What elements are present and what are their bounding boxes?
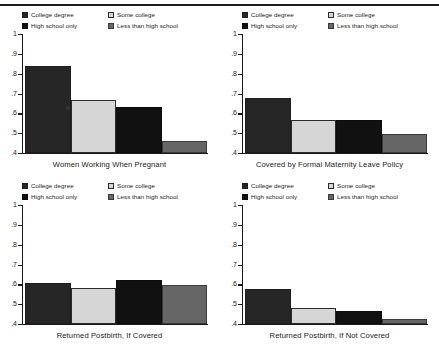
y-axis-tick-label: .9 [231,220,237,229]
legend-column: College degreeHigh school only [242,181,297,203]
legend-swatch-icon [242,12,248,18]
legend-swatch-icon [328,183,334,189]
legend-item[interactable]: High school only [22,192,77,201]
y-axis-tick-mark [238,245,242,246]
y-axis-tick-mark [238,74,242,75]
y-axis-tick-mark [238,94,242,95]
bar [162,285,208,324]
y-axis-tick-label: .8 [231,69,237,78]
legend-column: College degreeHigh school only [242,10,297,32]
y-axis-tick-label: .8 [231,240,237,249]
y-axis-tick-mark [18,284,22,285]
legend-label: Some college [337,182,375,190]
y-axis-tick-mark [238,113,242,114]
y-axis-tick-mark [18,54,22,55]
legend-swatch-icon [242,23,248,29]
y-axis-tick-mark [18,94,22,95]
figure-canvas: College degreeHigh school onlySome colle… [0,0,439,348]
y-axis-tick-mark [238,34,242,35]
legend-label: Some college [337,11,375,19]
chart-panel: College degreeHigh school onlySome colle… [0,6,219,177]
bar [245,98,291,153]
legend-item[interactable]: High school only [242,21,297,30]
y-axis-tick-mark [18,205,22,206]
legend-label: Less than high school [337,193,398,201]
y-axis-tick-mark [18,153,22,154]
chart-legend: College degreeHigh school onlySome colle… [20,181,216,201]
plot-area: 1.9.8.7.6.5.4 [242,34,428,153]
legend-item[interactable]: Some college [108,10,178,19]
legend-item[interactable]: College degree [22,181,77,190]
y-axis-tick-mark [238,133,242,134]
y-axis-tick-mark [238,205,242,206]
y-axis-tick-mark [18,265,22,266]
y-axis-tick-label: .7 [231,89,237,98]
legend-item[interactable]: Less than high school [108,192,178,201]
legend-item[interactable]: Less than high school [328,192,398,201]
legend-label: Some college [117,182,155,190]
y-axis-tick-mark [18,133,22,134]
y-axis-tick-label: .6 [231,279,237,288]
legend-item[interactable]: Less than high school [108,21,178,30]
y-axis-line [22,34,23,153]
x-axis-line [22,153,208,154]
y-axis-tick-mark [18,74,22,75]
legend-label: College degree [31,11,74,19]
plot-area: 1.9.8.7.6.5.4 [242,205,428,324]
legend-swatch-icon [328,194,334,200]
y-axis-tick-mark [18,113,22,114]
legend-item[interactable]: College degree [242,10,297,19]
y-axis-tick-label: .9 [231,49,237,58]
y-axis-tick-label: .5 [11,299,17,308]
legend-column: College degreeHigh school only [22,181,77,203]
legend-column: College degreeHigh school only [22,10,77,32]
y-axis-tick-mark [238,304,242,305]
x-axis-line [242,324,428,325]
y-axis-line [22,205,23,324]
legend-swatch-icon [22,12,28,18]
panel-grid: College degreeHigh school onlySome colle… [0,6,439,348]
legend-swatch-icon [108,183,114,189]
legend-swatch-icon [328,12,334,18]
chart-panel: College degreeHigh school onlySome colle… [220,6,439,177]
legend-item[interactable]: High school only [242,192,297,201]
x-axis-line [242,153,428,154]
y-axis-tick-label: .8 [11,240,17,249]
y-axis-tick-mark [18,324,22,325]
legend-column: Some collegeLess than high school [328,10,398,32]
chart-panel: College degreeHigh school onlySome colle… [0,177,219,348]
bar [245,289,291,324]
plot-area: 1.9.8.7.6.5.4 [22,34,208,153]
legend-item[interactable]: Some college [328,10,398,19]
y-axis-tick-label: .4 [231,319,237,328]
y-axis-tick-label: 1 [13,200,17,209]
y-axis-tick-label: .4 [231,148,237,157]
bar [116,107,162,153]
legend-item[interactable]: College degree [242,181,297,190]
legend-item[interactable]: College degree [22,10,77,19]
legend-column: Some collegeLess than high school [108,10,178,32]
legend-label: Less than high school [337,22,398,30]
y-axis-tick-mark [238,265,242,266]
legend-swatch-icon [22,194,28,200]
y-axis-line [242,205,243,324]
legend-swatch-icon [108,194,114,200]
legend-label: High school only [251,193,297,201]
legend-swatch-icon [328,23,334,29]
legend-item[interactable]: High school only [22,21,77,30]
y-axis-tick-mark [238,324,242,325]
chart-legend: College degreeHigh school onlySome colle… [20,10,216,30]
y-axis-tick-label: .5 [231,128,237,137]
y-axis-tick-mark [238,153,242,154]
y-axis-tick-label: 1 [13,29,17,38]
y-axis-tick-mark [18,304,22,305]
y-axis-tick-mark [18,245,22,246]
legend-item[interactable]: Some college [328,181,398,190]
y-axis-tick-mark [18,225,22,226]
legend-item[interactable]: Some college [108,181,178,190]
panel-title: Returned Postbirth, If Not Covered [220,331,439,340]
legend-item[interactable]: Less than high school [328,21,398,30]
legend-swatch-icon [242,183,248,189]
y-axis-tick-mark [238,284,242,285]
y-axis-tick-label: .7 [11,260,17,269]
